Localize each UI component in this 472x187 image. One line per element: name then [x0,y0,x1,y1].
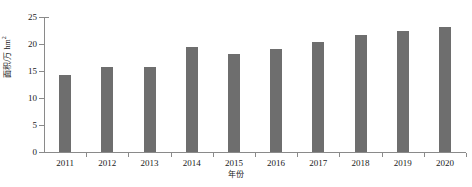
bar-2016 [270,49,282,152]
x-axis-tick-label: 2014 [172,158,212,168]
y-axis-tick-label: 10 [16,94,37,103]
y-axis-title-superscript: 2 [1,36,7,39]
x-axis-title: 年份 [0,170,472,180]
x-axis-tick [466,153,467,157]
bar-chart-figure: 面积/万 hm2 0510152025 20112012201320142015… [0,0,472,187]
x-axis-tick-label: 2019 [383,158,423,168]
x-axis-tick [297,153,298,157]
bar-2017 [312,42,324,152]
y-axis-title: 面积/万 hm2 [3,21,13,93]
x-axis-tick-label: 2011 [45,158,85,168]
bar-2013 [144,67,156,152]
plot-area [44,17,466,152]
x-axis-tick [128,153,129,157]
x-axis-tick [171,153,172,157]
y-axis-tick-label: 20 [16,40,37,49]
y-axis-tick [39,152,44,153]
bar-2014 [186,47,198,152]
x-axis-tick-label: 2012 [87,158,127,168]
x-axis-tick-label: 2017 [298,158,338,168]
x-axis-tick [255,153,256,157]
x-axis-tick [213,153,214,157]
y-axis-tick-label: 15 [16,67,37,76]
x-axis-tick [339,153,340,157]
x-axis-tick [424,153,425,157]
y-axis-title-text: 面积/万 hm [3,39,12,77]
bar-2011 [59,75,71,152]
x-axis-tick-label: 2016 [256,158,296,168]
bar-2019 [397,31,409,153]
y-axis-tick-label: 0 [16,148,37,157]
x-axis-tick [382,153,383,157]
y-axis-tick-label: 25 [16,13,37,22]
x-axis-tick-label: 2015 [214,158,254,168]
bar-2020 [439,27,451,152]
y-axis-tick-label: 5 [16,121,37,130]
x-axis-tick-label: 2018 [341,158,381,168]
x-axis-tick-label: 2020 [425,158,465,168]
x-axis-tick-label: 2013 [130,158,170,168]
bar-2015 [228,54,240,152]
bar-2012 [101,67,113,152]
x-axis-tick [86,153,87,157]
bar-2018 [355,35,367,152]
